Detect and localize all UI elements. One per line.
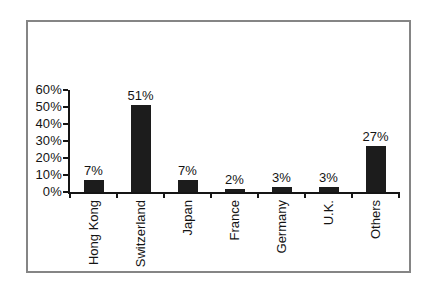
y-axis-tick-label: 50% <box>28 100 62 114</box>
y-axis-tick-label: 60% <box>28 83 62 97</box>
bar-germany <box>272 187 292 192</box>
x-axis-category-label: Hong Kong <box>86 200 101 265</box>
x-axis-category-label: Japan <box>180 200 195 235</box>
y-axis-tick <box>63 106 68 108</box>
y-axis-tick-label: 0% <box>28 185 62 199</box>
x-axis-category-label: U.K. <box>321 200 336 225</box>
bar-hong-kong <box>84 180 104 192</box>
y-axis-tick-label: 10% <box>28 168 62 182</box>
x-axis-category-label: Others <box>368 200 383 239</box>
y-axis-tick <box>63 123 68 125</box>
bar-chart-plot: 0%10%20%30%40%50%60%7%Hong Kong51%Switze… <box>28 22 409 271</box>
bar-value-label: 27% <box>346 130 406 144</box>
bar-france <box>225 189 245 192</box>
x-axis-tick <box>257 192 259 198</box>
y-axis-tick-label: 20% <box>28 151 62 165</box>
x-axis-tick <box>304 192 306 198</box>
x-axis-category-label: France <box>227 200 242 240</box>
bar-value-label: 51% <box>111 89 171 103</box>
chart-image: 0%10%20%30%40%50%60%7%Hong Kong51%Switze… <box>0 0 430 294</box>
y-axis-tick-label: 40% <box>28 117 62 131</box>
bar-japan <box>178 180 198 192</box>
x-axis-tick <box>163 192 165 198</box>
bar-value-label: 7% <box>64 164 124 178</box>
bar-others <box>366 146 386 192</box>
x-axis-tick <box>351 192 353 198</box>
x-axis-tick <box>116 192 118 198</box>
bar-value-label: 3% <box>299 171 359 185</box>
y-axis-line <box>68 90 70 194</box>
x-axis-tick <box>69 192 71 198</box>
y-axis-tick <box>63 157 68 159</box>
bar-u-k- <box>319 187 339 192</box>
chart-frame: 0%10%20%30%40%50%60%7%Hong Kong51%Switze… <box>26 20 411 273</box>
bar-switzerland <box>131 105 151 192</box>
x-axis-tick <box>398 192 400 198</box>
x-axis-tick <box>210 192 212 198</box>
y-axis-tick <box>63 140 68 142</box>
y-axis-tick <box>63 89 68 91</box>
x-axis-category-label: Switzerland <box>133 200 148 267</box>
y-axis-tick-label: 30% <box>28 134 62 148</box>
y-axis-tick <box>63 191 68 193</box>
x-axis-category-label: Germany <box>274 200 289 253</box>
